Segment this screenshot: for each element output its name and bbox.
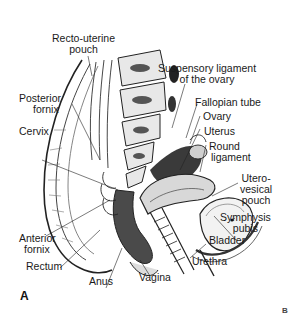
label-bladder: Bladder [209, 235, 245, 246]
label-posterior-fornix: Posterior fornix [19, 93, 61, 115]
label-round-ligament: Round ligament [209, 141, 251, 163]
anatomy-figure: Recto-uterine pouch Suspensory ligament … [0, 0, 291, 315]
panel-label-a: A [20, 289, 29, 303]
label-line: of the ovary [158, 74, 256, 85]
label-utero-vesical-pouch: Utero- vesical pouch [240, 173, 272, 206]
label-rectum: Rectum [26, 261, 62, 272]
label-cervix: Cervix [19, 126, 49, 137]
label-line: pouch [52, 44, 115, 55]
label-suspensory-ligament: Suspensory ligament of the ovary [158, 63, 256, 85]
label-symphysis-pubis: Symphysis pubis [220, 212, 271, 234]
label-line: fornix [19, 104, 61, 115]
label-ovary: Ovary [203, 111, 231, 122]
label-vagina: Vagina [139, 272, 171, 283]
label-uterus: Uterus [204, 126, 235, 137]
label-line: pubis [220, 223, 271, 234]
panel-label-b: B [282, 306, 288, 315]
label-recto-uterine-pouch: Recto-uterine pouch [52, 33, 115, 55]
label-line: fornix [19, 244, 56, 255]
label-line: pouch [240, 195, 272, 206]
label-urethra: Urethra [192, 256, 227, 267]
label-line: ligament [209, 152, 251, 163]
label-anterior-fornix: Anterior fornix [19, 233, 56, 255]
label-fallopian-tube: Fallopian tube [195, 97, 261, 108]
label-anus: Anus [89, 276, 113, 287]
